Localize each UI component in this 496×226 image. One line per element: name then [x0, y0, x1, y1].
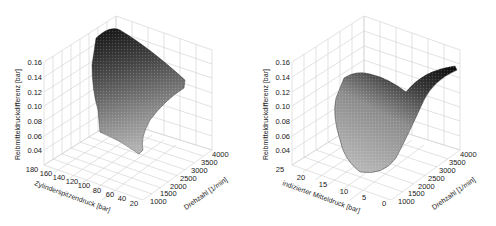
y-tick: 2500 [428, 174, 445, 183]
x-tick: 100 [78, 181, 91, 190]
x-tick: 120 [66, 177, 79, 186]
x-tick: 20 [297, 173, 305, 182]
z-tick: 0.04 [27, 146, 42, 155]
z-tick: 0.08 [27, 117, 42, 126]
y-tick: 1000 [398, 197, 415, 206]
z-tick: 0.10 [27, 102, 42, 111]
x-tick: 15 [319, 180, 327, 189]
surface-mesh [92, 29, 185, 154]
surface-plot-imep: 0.16 0.14 0.12 0.10 0.08 0.06 0.04 Reibm… [248, 0, 496, 226]
x-tick: 10 [340, 187, 348, 196]
y-tick: 3000 [191, 166, 208, 175]
x-tick: 60 [106, 190, 114, 199]
x-tick: 40 [118, 194, 126, 203]
y-tick: 2000 [418, 182, 435, 191]
x-tick: 80 [93, 186, 101, 195]
plot-canvas: 0.16 0.14 0.12 0.10 0.08 0.06 0.04 Reibm… [248, 0, 496, 226]
z-tick: 0.14 [27, 73, 42, 82]
x-tick: 5 [362, 193, 366, 202]
y-tick: 3500 [201, 158, 218, 167]
z-axis: 0.16 0.14 0.12 0.10 0.08 0.06 0.04 [27, 58, 42, 155]
x-tick: 0 [382, 199, 386, 208]
z-tick: 0.16 [275, 58, 290, 67]
y-axis: 1000 1500 2000 2500 3000 3500 4000 [398, 150, 477, 206]
surface-plot-cylinder-pressure: 0.16 0.14 0.12 0.10 0.08 0.06 0.04 Reibm… [0, 0, 248, 226]
y-axis: 1000 1500 2000 2500 3000 3500 4000 [150, 150, 229, 206]
y-tick: 3000 [439, 166, 456, 175]
x-tick: 20 [130, 199, 138, 208]
z-tick: 0.12 [27, 88, 42, 97]
z-tick: 0.06 [27, 132, 42, 141]
z-tick: 0.16 [27, 58, 42, 67]
y-tick: 3500 [449, 158, 466, 167]
z-axis: 0.16 0.14 0.12 0.10 0.08 0.06 0.04 [275, 58, 290, 155]
z-tick: 0.08 [275, 117, 290, 126]
z-tick: 0.14 [275, 73, 290, 82]
x-tick: 180 [26, 165, 39, 174]
z-axis-label: Reibmitteldruckdifferenz [bar] [262, 69, 270, 160]
z-axis-label: Reibmitteldruckdifferenz [bar] [14, 69, 22, 160]
y-tick: 4000 [212, 150, 229, 159]
plot-canvas: 0.16 0.14 0.12 0.10 0.08 0.06 0.04 Reibm… [0, 0, 248, 226]
x-tick: 160 [40, 169, 53, 178]
x-tick: 140 [53, 173, 66, 182]
y-tick: 2000 [170, 182, 187, 191]
y-tick: 2500 [180, 174, 197, 183]
x-tick: 25 [276, 165, 284, 174]
z-tick: 0.10 [275, 102, 290, 111]
z-tick: 0.12 [275, 88, 290, 97]
y-tick: 4000 [460, 150, 477, 159]
y-tick: 1000 [150, 197, 167, 206]
z-tick: 0.04 [275, 146, 290, 155]
z-tick: 0.06 [275, 132, 290, 141]
